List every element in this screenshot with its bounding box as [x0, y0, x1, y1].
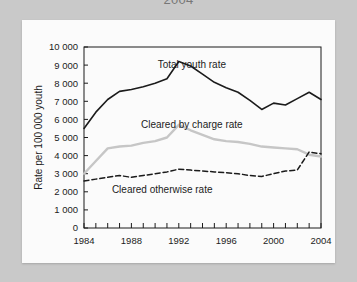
y-axis-title: Rate per 100 000 youth	[33, 85, 44, 190]
series-line-2	[84, 152, 321, 181]
series-label-2: Cleared otherwise rate	[112, 184, 213, 195]
y-tick-label: 6 000	[54, 114, 78, 125]
x-tick-label: 1984	[73, 235, 94, 246]
x-tick-label: 1996	[216, 235, 237, 246]
page-title-partial: 2004	[0, 0, 357, 8]
x-tick-label: 1988	[121, 235, 142, 246]
series-label-0: Total youth rate	[158, 59, 227, 70]
y-tick-label: 7 000	[54, 96, 78, 107]
y-tick-label: 0	[73, 222, 78, 233]
y-tick-label: 1 000	[54, 204, 78, 215]
series-line-0	[84, 61, 321, 128]
chart-plot-area: 01 0002 0003 0004 0005 0006 0007 0008 00…	[33, 41, 332, 246]
y-tick-label: 2 000	[54, 186, 78, 197]
x-tick-label: 2004	[310, 235, 331, 246]
y-tick-label: 10 000	[49, 41, 78, 52]
series-line-1	[84, 125, 321, 174]
figure-card: 01 0002 0003 0004 0005 0006 0007 0008 00…	[22, 20, 335, 263]
y-tick-label: 5 000	[54, 132, 78, 143]
y-tick-label: 3 000	[54, 168, 78, 179]
x-tick-label: 1992	[168, 235, 189, 246]
x-tick-label: 2000	[263, 235, 284, 246]
line-chart: 01 0002 0003 0004 0005 0006 0007 0008 00…	[22, 20, 335, 263]
y-tick-label: 4 000	[54, 150, 78, 161]
series-label-1: Cleared by charge rate	[141, 119, 243, 130]
y-tick-label: 8 000	[54, 78, 78, 89]
y-tick-label: 9 000	[54, 60, 78, 71]
